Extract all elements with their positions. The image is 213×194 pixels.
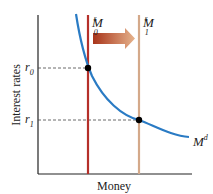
money-market-diagram: M0s M1s Md r0 r1 Money Interest rates — [0, 0, 213, 194]
label-r1: r1 — [25, 112, 34, 129]
shift-arrow-icon — [93, 28, 135, 49]
y-axis-label: Interest rates — [9, 64, 23, 126]
x-axis-label: Money — [97, 179, 131, 193]
equilibrium-point-initial — [85, 65, 91, 71]
label-md: Md — [192, 133, 209, 149]
label-ms1: M1s — [142, 14, 155, 37]
equilibrium-point-new — [136, 117, 142, 123]
label-r0: r0 — [25, 60, 34, 77]
